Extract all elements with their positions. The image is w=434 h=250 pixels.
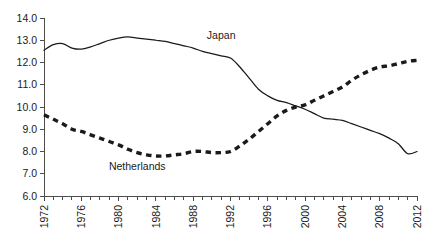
x-tick-label: 1996 xyxy=(262,205,274,229)
series-lines xyxy=(44,37,417,156)
x-axis: 1972197619801984198819921996200020042008… xyxy=(38,196,423,228)
x-tick-label: 2012 xyxy=(411,205,423,229)
x-tick-label: 1988 xyxy=(187,205,199,229)
y-tick-label: 12.0 xyxy=(17,56,38,68)
y-axis: 6.07.08.09.010.011.012.013.014.0 xyxy=(17,12,44,202)
y-tick-label: 13.0 xyxy=(17,34,38,46)
x-tick-label: 1976 xyxy=(75,205,87,229)
y-tick-label: 6.0 xyxy=(22,190,37,202)
y-tick-label: 14.0 xyxy=(17,12,38,24)
y-tick-label: 7.0 xyxy=(22,167,37,179)
y-tick-label: 9.0 xyxy=(22,123,37,135)
y-tick-label: 11.0 xyxy=(17,78,37,90)
x-tick-label: 2008 xyxy=(373,205,385,229)
y-tick-label: 8.0 xyxy=(22,145,37,157)
x-tick-label: 1984 xyxy=(150,205,162,229)
y-tick-label: 10.0 xyxy=(17,101,38,113)
x-tick-label: 1980 xyxy=(112,205,124,229)
series-label-netherlands: Netherlands xyxy=(109,160,166,172)
series-line-netherlands xyxy=(44,60,417,156)
chart-container: 6.07.08.09.010.011.012.013.014.0 1972197… xyxy=(0,0,434,250)
series-label-japan: Japan xyxy=(207,29,236,41)
x-tick-label: 1972 xyxy=(38,205,50,229)
line-chart: 6.07.08.09.010.011.012.013.014.0 1972197… xyxy=(0,0,434,250)
x-tick-label: 1992 xyxy=(224,205,236,229)
x-tick-label: 2000 xyxy=(299,205,311,229)
x-tick-label: 2004 xyxy=(336,205,348,229)
